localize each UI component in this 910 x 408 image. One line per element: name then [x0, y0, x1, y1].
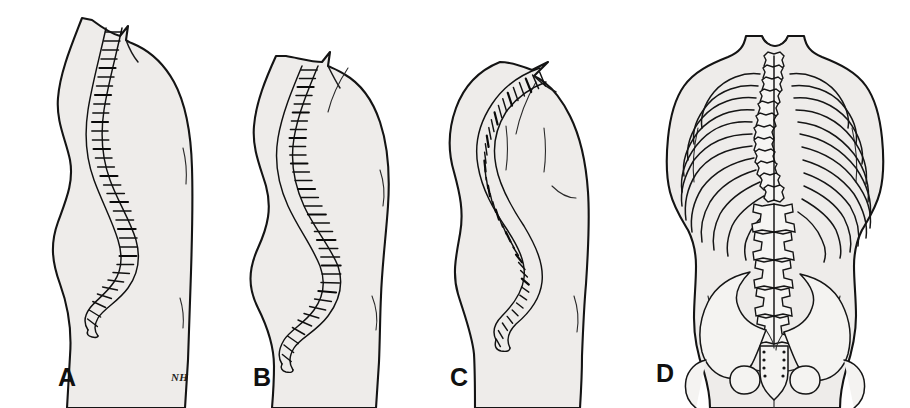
- torso-outline-c: [450, 62, 589, 408]
- panel-label-a: A: [58, 363, 76, 391]
- panel-c-severe-kyphosis: C: [428, 0, 640, 408]
- torso-outline-b: [251, 52, 389, 408]
- panel-b-moderate-kyphosis: B: [228, 0, 428, 408]
- panel-label-c: C: [450, 363, 468, 391]
- artist-signature: NH: [170, 371, 188, 383]
- panel-d-posterior-scoliosis: D: [640, 0, 910, 408]
- spinal-curvature-figure: A NH: [0, 0, 910, 408]
- panel-label-d: D: [656, 359, 674, 387]
- panel-label-b: B: [253, 363, 271, 391]
- torso-outline-a: [53, 18, 193, 408]
- panel-a-normal-curvature: A NH: [0, 0, 228, 408]
